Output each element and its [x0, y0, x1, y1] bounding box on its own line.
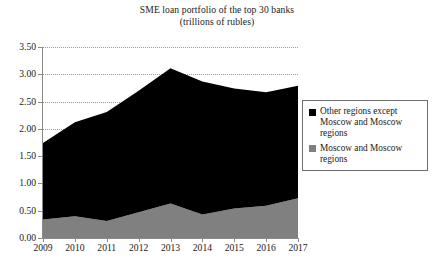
y-tick-label: 1.50: [0, 151, 36, 161]
legend-swatch-icon: [309, 145, 316, 152]
chart-title-block: SME loan portfolio of the top 30 banks (…: [0, 4, 434, 27]
legend-label-moscow-regions: Moscow and Moscow regions: [320, 143, 402, 165]
stacked-area-series: [43, 47, 298, 238]
chart-legend: Other regions except Moscow and Moscow r…: [302, 100, 428, 171]
legend-item-other-regions: Other regions except Moscow and Moscow r…: [309, 106, 422, 140]
y-tick-label: 3.00: [0, 69, 36, 79]
legend-label-other-regions: Other regions except Moscow and Moscow r…: [320, 106, 402, 140]
legend-item-moscow-regions: Moscow and Moscow regions: [309, 143, 422, 165]
y-tick-label: 2.00: [0, 124, 36, 134]
y-tick-label: 3.50: [0, 42, 36, 52]
y-tick-label: 2.50: [0, 97, 36, 107]
x-tick-label: 2017: [278, 242, 318, 253]
y-tick-label: 1.00: [0, 178, 36, 188]
legend-swatch-icon: [309, 109, 316, 116]
area-series: [43, 68, 298, 221]
chart-title: SME loan portfolio of the top 30 banks: [0, 4, 434, 16]
y-tick-label: 0.50: [0, 206, 36, 216]
y-axis-line: [42, 47, 43, 239]
chart-container: SME loan portfolio of the top 30 banks (…: [0, 0, 434, 267]
chart-subtitle: (trillions of rubles): [0, 16, 434, 28]
plot-area: [43, 47, 298, 238]
